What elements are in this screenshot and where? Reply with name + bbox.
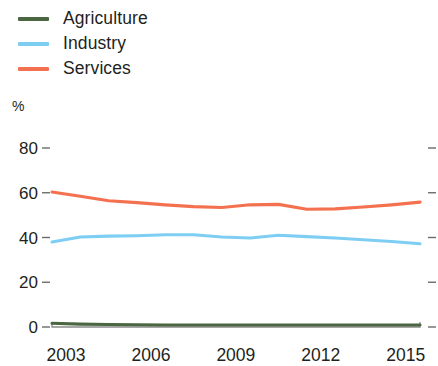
- x-tick-label: 2012: [301, 345, 340, 365]
- series-line-services: [52, 192, 420, 209]
- series-line-agriculture: [52, 323, 420, 325]
- series-line-industry: [52, 235, 420, 244]
- y-tick-label: 20: [19, 273, 38, 292]
- x-axis-tick-labels: 20032006200920122015: [47, 345, 426, 365]
- y-tick-label: 60: [19, 184, 38, 203]
- x-tick-label: 2015: [386, 345, 425, 365]
- series-lines: [52, 192, 420, 325]
- y-axis-ticks-left: [42, 148, 50, 327]
- plot-svg: 806040200 20032006200920122015: [0, 0, 438, 366]
- y-axis-ticks-right: [428, 148, 436, 327]
- y-axis-tick-labels: 806040200: [19, 139, 38, 337]
- y-tick-label: 0: [29, 318, 38, 337]
- line-chart-sector-share: Agriculture Industry Services % 80604020…: [0, 0, 438, 366]
- plot-area: 806040200 20032006200920122015: [0, 0, 438, 366]
- x-tick-label: 2006: [131, 345, 170, 365]
- y-tick-label: 40: [19, 229, 38, 248]
- x-tick-label: 2003: [47, 345, 86, 365]
- y-tick-label: 80: [19, 139, 38, 158]
- x-tick-label: 2009: [216, 345, 255, 365]
